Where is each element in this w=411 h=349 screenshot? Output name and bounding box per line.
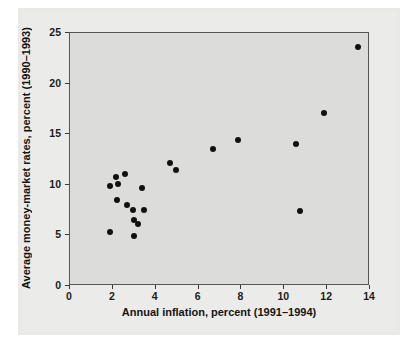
- x-axis-tick-label: 0: [66, 290, 72, 302]
- x-axis-tick-label: 6: [195, 290, 201, 302]
- y-axis-tick-label: 10: [49, 178, 61, 190]
- x-axis-tick: [155, 285, 156, 289]
- x-axis-tick-label: 4: [152, 290, 158, 302]
- x-axis-title: Annual inflation, percent (1991–1994): [69, 306, 369, 318]
- y-axis-tick-label: 15: [49, 127, 61, 139]
- x-axis-tick-label: 10: [277, 290, 289, 302]
- y-axis-tick: [65, 285, 69, 286]
- plot-area-frame: [69, 32, 369, 285]
- x-axis-tick: [283, 285, 284, 289]
- x-axis-tick: [69, 285, 70, 289]
- y-axis-tick-label: 5: [55, 228, 61, 240]
- x-axis-tick: [240, 285, 241, 289]
- y-axis-title: Average money-market rates, percent (199…: [19, 32, 33, 285]
- y-axis-tick: [65, 133, 69, 134]
- x-axis-tick-label: 8: [238, 290, 244, 302]
- y-axis-tick: [65, 234, 69, 235]
- x-axis-tick-label: 12: [320, 290, 332, 302]
- y-axis-tick-label: 20: [49, 77, 61, 89]
- x-axis-tick-label: 14: [363, 290, 375, 302]
- y-axis-tick: [65, 32, 69, 33]
- scatter-chart-figure: 02468101214 0510152025 Annual inflation,…: [0, 0, 411, 349]
- x-axis-tick-label: 2: [109, 290, 115, 302]
- x-axis-tick: [112, 285, 113, 289]
- x-axis-tick: [198, 285, 199, 289]
- x-axis-tick: [369, 285, 370, 289]
- x-axis-tick: [326, 285, 327, 289]
- y-axis-tick: [65, 184, 69, 185]
- y-axis-tick-label: 25: [49, 26, 61, 38]
- y-axis-tick-label: 0: [55, 279, 61, 291]
- y-axis-tick: [65, 83, 69, 84]
